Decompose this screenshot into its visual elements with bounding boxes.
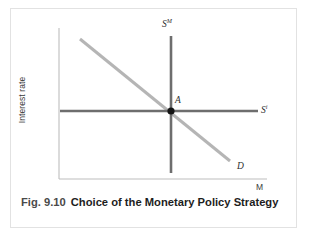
interest-target-label-superscript: i — [266, 103, 268, 110]
figure-caption: Fig. 9.10Choice of the Monetary Policy S… — [21, 195, 291, 210]
equilibrium-point-label: A — [175, 95, 181, 105]
figure-caption-number: Fig. 9.10 — [21, 196, 66, 208]
money-supply-label-superscript: M — [167, 17, 172, 24]
equilibrium-point-dot — [167, 107, 174, 114]
money-supply-curve-label: SM — [162, 19, 172, 29]
interest-target-curve-label: Si — [261, 105, 267, 115]
demand-curve-label: D — [237, 161, 244, 171]
y-axis-label: Interest rate — [17, 68, 27, 132]
figure-container: Interest rate M SM Si D A Fig. 9.10Choic… — [0, 0, 310, 234]
figure-frame: Interest rate M SM Si D A Fig. 9.10Choic… — [10, 8, 297, 228]
plot-area: Interest rate M SM Si D A — [11, 9, 298, 189]
plot-svg — [11, 9, 298, 189]
figure-caption-title: Choice of the Monetary Policy Strategy — [71, 196, 279, 208]
demand-curve — [80, 39, 230, 161]
x-axis-label: M — [256, 182, 263, 192]
